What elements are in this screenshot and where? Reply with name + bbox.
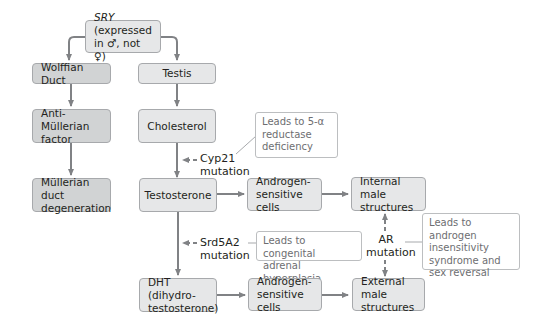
arrow-sry-wolffian [69, 37, 86, 60]
node-label: Androgen-sensitive cells [257, 275, 313, 314]
node-sry: SRY (expressed in ♂, not ♀) [85, 20, 161, 53]
node-wolffian-duct: Wolffian Duct [32, 63, 111, 84]
node-label: Anti-Müllerian factor [41, 107, 102, 146]
sry-description: (expressed in ♂, not ♀) [94, 24, 152, 62]
node-label: Wolffian Duct [41, 61, 102, 87]
note-ar: Leads to androgen insensitivity syndrome… [422, 213, 520, 270]
node-label: Internal male structures [360, 175, 417, 214]
node-label: Müllerian duct degeneration [41, 176, 111, 215]
node-mullerian-duct-degeneration: Müllerian duct degeneration [32, 178, 111, 212]
node-external-male-structures: External male structures [352, 278, 425, 311]
node-label: Cholesterol [147, 120, 206, 133]
node-label: External male structures [361, 275, 416, 314]
node-label: Testis [162, 67, 191, 80]
mutation-srd5a2: Srd5A2 mutation [200, 236, 248, 262]
arrow-sry-testis [160, 37, 177, 60]
node-label: DHT (dihydro-testosterone) [148, 276, 218, 315]
node-androgen-sensitive-cells-1: Androgen-sensitive cells [247, 178, 322, 211]
node-testosterone: Testosterone [139, 178, 217, 212]
node-cholesterol: Cholesterol [138, 109, 216, 143]
note-srd5a2: Leads to congenital adrenal hyperplasia [256, 231, 362, 261]
node-label: Androgen-sensitive cells [256, 175, 313, 214]
note-cyp21: Leads to 5-α reductase deficiency [255, 112, 338, 158]
mutation-cyp21: Cyp21 mutation [200, 152, 246, 178]
node-anti-mullerian-factor: Anti-Müllerian factor [32, 109, 111, 143]
mutation-ar: AR mutation [366, 233, 406, 259]
node-dht: DHT (dihydro-testosterone) [139, 278, 217, 312]
node-internal-male-structures: Internal male structures [351, 177, 426, 211]
sry-gene-name: SRY [94, 11, 114, 23]
node-androgen-sensitive-cells-2: Androgen-sensitive cells [248, 278, 322, 311]
node-testis: Testis [138, 63, 216, 84]
node-label: Testosterone [145, 189, 212, 202]
